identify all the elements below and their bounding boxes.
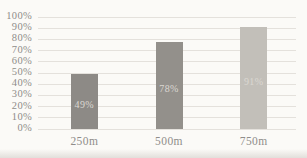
- plot-area: 0%10%20%30%40%50%60%70%80%90%100%49%250m…: [38, 17, 296, 129]
- bar-value-label: 78%: [159, 83, 179, 94]
- bar-250m: 49%: [71, 74, 98, 129]
- y-axis-tick-label: 70%: [12, 45, 32, 56]
- bar-750m: 91%: [240, 27, 267, 129]
- y-axis-tick-label: 80%: [12, 34, 32, 45]
- bar-value-label: 91%: [244, 76, 264, 87]
- y-axis-tick-label: 90%: [12, 22, 32, 32]
- y-axis-tick-label: 60%: [12, 56, 32, 67]
- y-axis-tick-label: 20%: [12, 101, 32, 112]
- bottom-edge-shadow: [0, 149, 307, 158]
- x-axis-label: 500m: [155, 136, 183, 148]
- y-axis-tick-label: 10%: [12, 112, 32, 123]
- y-axis-tick-label: 50%: [12, 67, 32, 78]
- bar-chart: 0%10%20%30%40%50%60%70%80%90%100%49%250m…: [0, 0, 307, 158]
- y-axis-tick-label: 0%: [17, 123, 32, 134]
- bar-500m: 78%: [156, 42, 183, 129]
- y-axis-tick-label: 30%: [12, 90, 32, 101]
- x-axis-label: 250m: [70, 136, 98, 148]
- x-axis-label: 750m: [240, 136, 268, 148]
- y-axis-tick-label: 40%: [12, 78, 32, 89]
- bar-value-label: 49%: [75, 99, 95, 110]
- y-axis-tick-label: 100%: [6, 11, 32, 22]
- gridline: [38, 17, 296, 18]
